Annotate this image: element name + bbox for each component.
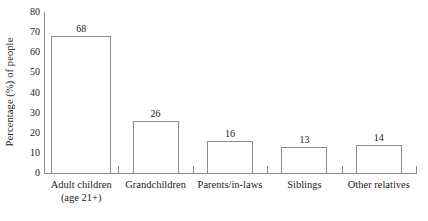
y-tick-label: 20 xyxy=(18,128,40,138)
y-tick-label: 50 xyxy=(18,67,40,77)
y-tick-label: 80 xyxy=(18,7,40,17)
bar xyxy=(207,141,253,173)
x-axis-line xyxy=(44,173,416,174)
y-tick-label: 60 xyxy=(18,47,40,57)
y-tick-label: 30 xyxy=(18,108,40,118)
category-label: Other relatives xyxy=(334,178,424,191)
bar-value-label: 13 xyxy=(284,134,324,145)
bar xyxy=(356,145,402,173)
category-label-line1: Adult children xyxy=(51,179,112,190)
bar-value-label: 16 xyxy=(210,128,250,139)
y-tick-label: 10 xyxy=(18,148,40,158)
category-tick xyxy=(416,166,417,174)
y-axis-tick-labels: 01020304050607080 xyxy=(18,12,40,173)
bar xyxy=(51,36,111,173)
category-label-line1: Grandchildren xyxy=(125,179,186,190)
bar xyxy=(133,121,179,173)
bar-value-label: 26 xyxy=(136,108,176,119)
category-label-line1: Siblings xyxy=(287,179,321,190)
y-tick-label: 70 xyxy=(18,27,40,37)
bar xyxy=(281,147,327,173)
y-tick-label: 40 xyxy=(18,88,40,98)
bar-chart: Percentage (%) of people 010203040506070… xyxy=(0,0,428,221)
category-label-line1: Parents/in-laws xyxy=(198,179,263,190)
bar-value-label: 14 xyxy=(359,132,399,143)
y-axis-title: Percentage (%) of people xyxy=(2,4,18,180)
category-label-line1: Other relatives xyxy=(348,179,410,190)
category-label-line2: (age 21+) xyxy=(36,191,126,204)
y-tick-label: 0 xyxy=(18,168,40,178)
plot-area: 6826161314 xyxy=(44,12,416,173)
bar-value-label: 68 xyxy=(61,23,101,34)
